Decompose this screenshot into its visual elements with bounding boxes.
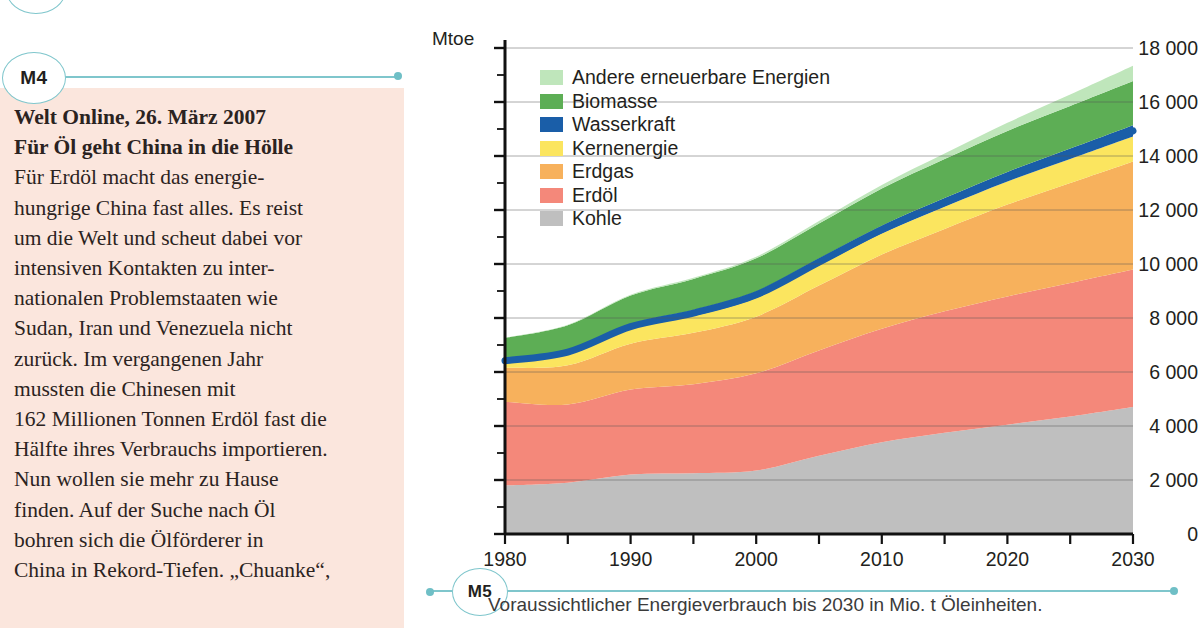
article-panel: Welt Online, 26. März 2007 Für Öl geht C… xyxy=(0,88,404,628)
legend-swatch-icon xyxy=(540,141,563,156)
legend-swatch-icon xyxy=(540,94,563,109)
article-body-line: zurück. Im vergangenen Jahr xyxy=(14,344,388,374)
m4-connector-rule xyxy=(64,76,396,78)
article-body-line: hungrige China fast alles. Es reist xyxy=(14,193,388,223)
legend-swatch-icon xyxy=(540,70,563,85)
legend-label: Biomasse xyxy=(572,92,658,112)
m5-connector-dot-right xyxy=(1170,587,1178,595)
legend-label: Kernenergie xyxy=(572,139,678,159)
article-body: Für Erdöl macht das energie-hungrige Chi… xyxy=(14,162,388,585)
article-body-line: intensiven Kontakten zu inter- xyxy=(14,253,388,283)
legend-swatch-icon xyxy=(540,117,563,132)
marker-m4[interactable]: M4 xyxy=(2,52,66,104)
article-body-line: 162 Millionen Tonnen Erdöl fast die xyxy=(14,404,388,434)
m5-connector-dot-left xyxy=(426,588,434,596)
m5-connector-rule-right xyxy=(498,590,1174,592)
marker-m4-label: M4 xyxy=(20,67,47,89)
article-body-line: nationalen Problemstaaten wie xyxy=(14,283,388,313)
legend-label: Wasserkraft xyxy=(572,115,675,135)
legend-swatch-icon xyxy=(540,211,563,226)
article-body-line: um die Welt und scheut dabei vor xyxy=(14,223,388,253)
article-body-line: mussten die Chinesen mit xyxy=(14,374,388,404)
legend-item-biomasse[interactable]: Biomasse xyxy=(540,90,830,114)
chart-caption: Voraussichtlicher Energieverbrauch bis 2… xyxy=(488,594,1042,616)
legend-label: Erdgas xyxy=(572,162,634,182)
decorative-arc-top xyxy=(6,0,66,14)
article-body-line: Sudan, Iran und Venezuela nicht xyxy=(14,313,388,343)
legend-item-wasserkraft[interactable]: Wasserkraft xyxy=(540,113,830,137)
article-headline: Für Öl geht China in die Hölle xyxy=(14,132,388,162)
legend-item-kernenergie[interactable]: Kernenergie xyxy=(540,137,830,161)
legend-label: Kohle xyxy=(572,209,622,229)
article-body-line: Für Erdöl macht das energie- xyxy=(14,162,388,192)
article-body-line: Hälfte ihres Verbrauchs importieren. xyxy=(14,434,388,464)
article-body-line: China in Rekord-Tiefen. „Chuanke“, xyxy=(14,555,388,585)
legend-label: Erdöl xyxy=(572,186,618,206)
energy-consumption-chart: Mtoe 02 0004 0006 0008 00010 00012 00014… xyxy=(418,0,1198,580)
legend-label: Andere erneuerbare Energien xyxy=(572,68,830,88)
legend-item-kohle[interactable]: Kohle xyxy=(540,207,830,231)
m4-connector-dot xyxy=(394,72,402,80)
legend-swatch-icon xyxy=(540,188,563,203)
chart-legend: Andere erneuerbare EnergienBiomasseWasse… xyxy=(540,66,830,231)
legend-item-erdgas[interactable]: Erdgas xyxy=(540,160,830,184)
article-body-line: bohren sich die Ölförderer in xyxy=(14,525,388,555)
legend-item-erd-l[interactable]: Erdöl xyxy=(540,184,830,208)
legend-item-andere-erneuerbare-energien[interactable]: Andere erneuerbare Energien xyxy=(540,66,830,90)
article-body-line: Nun wollen sie mehr zu Hause xyxy=(14,464,388,494)
article-body-line: finden. Auf der Suche nach Öl xyxy=(14,495,388,525)
legend-swatch-icon xyxy=(540,164,563,179)
article-source: Welt Online, 26. März 2007 xyxy=(14,102,388,132)
